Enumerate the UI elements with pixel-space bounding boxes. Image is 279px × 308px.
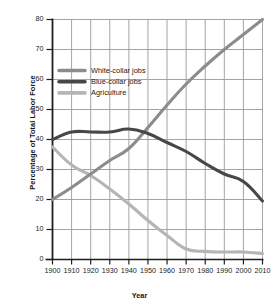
axis-lines bbox=[46, 19, 264, 260]
data-series bbox=[53, 20, 263, 254]
legend-item-label: Blue-collar jobs bbox=[91, 77, 142, 86]
labor-force-line-chart: Percentage of Total Labor Force Year 010… bbox=[0, 0, 279, 308]
plot-area bbox=[0, 0, 279, 308]
legend-item-label: Agriculture bbox=[91, 88, 126, 97]
legend-item-label: White-collar jobs bbox=[91, 66, 146, 75]
series-line bbox=[53, 147, 263, 254]
grid-lines bbox=[53, 20, 263, 260]
